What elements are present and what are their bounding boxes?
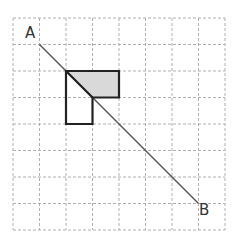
shaded-region xyxy=(66,71,119,98)
point-label-b: B xyxy=(199,203,209,218)
point-label-a: A xyxy=(25,26,35,41)
